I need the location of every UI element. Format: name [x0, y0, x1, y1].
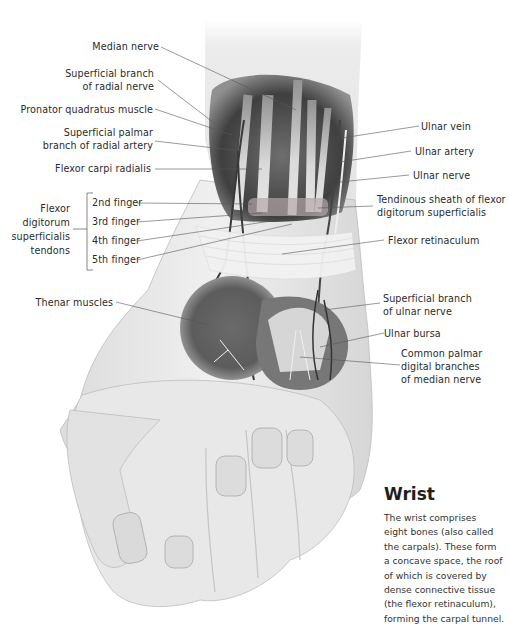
- label-text: Median nerve: [92, 41, 159, 52]
- label-thenar-muscles: Thenar muscles: [36, 296, 113, 309]
- body-line: (the flexor retinaculum),: [384, 597, 508, 611]
- nail-ring: [252, 428, 282, 468]
- label-ulnar-bursa: Ulnar bursa: [384, 327, 441, 340]
- body-line: The wrist comprises: [384, 511, 508, 525]
- label-text: of median nerve: [401, 373, 482, 386]
- label-pronator-quadratus: Pronator quadratus muscle: [21, 103, 153, 116]
- label-ulnar-artery: Ulnar artery: [415, 145, 474, 158]
- label-median-nerve: Median nerve: [92, 40, 159, 53]
- label-5th-finger: 5th finger: [92, 253, 140, 266]
- label-superficial-branch-radial-nerve: Superficial branch of radial nerve: [65, 67, 154, 93]
- label-text: Superficial branch: [65, 67, 154, 80]
- label-text: tendons: [11, 244, 70, 258]
- label-text: digitorum: [11, 216, 70, 230]
- body-line: a concave space, the roof: [384, 554, 508, 568]
- label-text: Superficial palmar: [43, 126, 153, 139]
- label-text: Ulnar bursa: [384, 328, 441, 339]
- label-text: superficialis: [11, 230, 70, 244]
- body-line: dense connective tissue: [384, 583, 508, 597]
- label-text: Flexor carpi radialis: [55, 163, 151, 174]
- label-text: Superficial branch: [383, 292, 472, 305]
- label-text: Flexor retinaculum: [388, 235, 479, 246]
- label-text: of radial nerve: [65, 80, 154, 93]
- label-tendinous-sheath: Tendinous sheath of flexor digitorum sup…: [377, 193, 506, 219]
- label-text: Pronator quadratus muscle: [21, 104, 153, 115]
- label-superficial-branch-ulnar-nerve: Superficial branch of ulnar nerve: [383, 292, 472, 318]
- body-line: eight bones (also called: [384, 525, 508, 539]
- label-common-palmar-digital-branches: Common palmar digital branches of median…: [401, 347, 482, 386]
- label-text: branch of radial artery: [43, 139, 153, 152]
- sidebar-title: Wrist: [384, 484, 435, 504]
- label-text: 2nd finger: [92, 197, 142, 208]
- label-text: digitorum superficialis: [377, 206, 506, 219]
- label-text: Flexor: [11, 202, 70, 216]
- nail-index: [165, 536, 193, 568]
- label-text: Ulnar vein: [421, 121, 471, 132]
- label-text: Ulnar nerve: [413, 170, 470, 181]
- body-line: of which is covered by: [384, 569, 508, 583]
- label-2nd-finger: 2nd finger: [92, 196, 142, 209]
- label-text: Thenar muscles: [36, 297, 113, 308]
- label-4th-finger: 4th finger: [92, 234, 140, 247]
- label-superficial-palmar-branch-radial-artery: Superficial palmar branch of radial arte…: [43, 126, 153, 152]
- label-3rd-finger: 3rd finger: [92, 215, 140, 228]
- label-flexor-carpi-radialis: Flexor carpi radialis: [55, 162, 151, 175]
- label-text: of ulnar nerve: [383, 305, 472, 318]
- label-text: Common palmar: [401, 347, 482, 360]
- label-flexor-digitorum-superficialis-tendons: Flexor digitorum superficialis tendons: [11, 202, 70, 258]
- label-text: 3rd finger: [92, 216, 140, 227]
- body-line: the carpals). These form: [384, 540, 508, 554]
- label-flexor-retinaculum: Flexor retinaculum: [388, 234, 479, 247]
- label-ulnar-vein: Ulnar vein: [421, 120, 471, 133]
- label-text: 5th finger: [92, 254, 140, 265]
- sidebar-body: The wrist comprises eight bones (also ca…: [384, 511, 508, 626]
- nail-middle: [216, 456, 246, 496]
- label-text: Tendinous sheath of flexor: [377, 193, 506, 206]
- body-line: forming the carpal tunnel.: [384, 612, 508, 626]
- label-ulnar-nerve: Ulnar nerve: [413, 169, 470, 182]
- label-text: Ulnar artery: [415, 146, 474, 157]
- label-text: digital branches: [401, 360, 482, 373]
- nail-little: [287, 430, 313, 466]
- label-text: 4th finger: [92, 235, 140, 246]
